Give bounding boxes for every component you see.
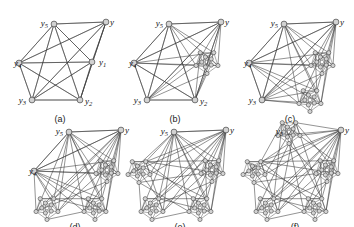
cluster-vertex: [311, 201, 315, 205]
cluster-vertex: [143, 197, 147, 201]
cluster-vertex: [241, 172, 245, 176]
backbone-edge: [80, 62, 92, 100]
cluster-vertex: [139, 209, 143, 213]
cluster-vertex: [324, 57, 328, 61]
cluster-vertex: [263, 172, 267, 176]
vertex-y2: [77, 97, 83, 103]
cluster-vertex: [52, 197, 56, 201]
cluster-vertex: [329, 165, 333, 169]
backbone-edge: [249, 63, 311, 66]
vertex-label-y2: y2: [84, 96, 93, 107]
figure-root: yy5y4y1y3y2(a)yy5y4y3y2(b)yy5y4y3(c)yy5y…: [0, 0, 354, 227]
backbone-edge: [296, 123, 341, 130]
cluster-vertex: [263, 201, 267, 205]
backbone-edge: [134, 63, 196, 66]
cluster-vertex: [329, 171, 333, 175]
vertex-label-y: y: [124, 125, 129, 135]
cluster-vertex: [40, 206, 44, 210]
cluster-vertex: [105, 179, 109, 183]
cluster-vertex: [318, 65, 322, 69]
cluster-vertex: [318, 159, 322, 163]
vertex-y1: [89, 59, 95, 65]
cluster-vertex: [318, 55, 322, 59]
cluster-vertex: [45, 217, 49, 221]
cluster-vertex: [315, 89, 319, 93]
cluster-vertex: [209, 63, 213, 67]
vertex-y: [118, 127, 124, 133]
panel-c: yy5y4y3(c): [243, 17, 344, 124]
vertex-label-y5: y5: [40, 18, 49, 29]
cluster-vertex: [148, 201, 152, 205]
cluster-vertex: [308, 206, 312, 210]
cluster-vertex: [313, 217, 317, 221]
cluster-vertex: [323, 163, 327, 167]
backbone-edge: [274, 130, 341, 199]
vertex-y5: [66, 129, 72, 135]
cluster-vertex: [272, 197, 276, 201]
cluster-vertex: [187, 209, 191, 213]
backbone-edge: [134, 63, 195, 100]
cluster-vertex: [303, 98, 307, 102]
replacement-cluster-e-3: [139, 197, 165, 222]
cluster-vertex: [141, 166, 145, 170]
cluster-vertex: [135, 164, 139, 168]
vertex-label-y5: y5: [55, 126, 64, 137]
cluster-vertex: [319, 101, 323, 105]
cluster-vertex: [198, 217, 202, 221]
cluster-vertex: [317, 209, 321, 213]
backbone-edge: [19, 24, 54, 63]
cluster-vertex: [256, 172, 260, 176]
backbone-edge: [69, 130, 121, 132]
cluster-vertex: [150, 217, 154, 221]
cluster-vertex: [210, 179, 214, 183]
panel-e: yy5(e): [126, 125, 234, 227]
cluster-vertex: [203, 159, 207, 163]
cluster-vertex: [214, 165, 218, 169]
vertex-label-y: y: [224, 17, 229, 27]
vertex-y3: [259, 97, 265, 103]
cluster-vertex: [221, 171, 225, 175]
cluster-vertex: [336, 171, 340, 175]
cluster-vertex: [205, 71, 209, 75]
vertex-label-y5: y5: [160, 126, 169, 137]
cluster-vertex: [82, 209, 86, 213]
cluster-vertex: [276, 209, 280, 213]
vertex-y: [103, 19, 109, 25]
cluster-vertex: [260, 206, 264, 210]
cluster-vertex: [98, 159, 102, 163]
cluster-vertex: [214, 171, 218, 175]
cluster-vertex: [49, 209, 53, 213]
vertex-label-y3: y3: [18, 95, 27, 106]
vertex-label-y4: y4: [28, 166, 37, 177]
cluster-vertex: [325, 179, 329, 183]
cluster-vertex: [194, 63, 198, 67]
cluster-vertex: [200, 60, 204, 64]
cluster-vertex: [209, 209, 213, 213]
backbone-edge: [159, 130, 226, 199]
cluster-vertex: [196, 211, 200, 215]
backbone-edge: [34, 171, 58, 212]
vertex-y5: [51, 21, 57, 27]
cluster-vertex: [103, 163, 107, 167]
cluster-vertex: [298, 133, 302, 137]
cluster-vertex: [285, 135, 289, 139]
vertex-label-y3: y3: [133, 95, 142, 106]
cluster-vertex: [97, 209, 101, 213]
cluster-vertex: [86, 197, 90, 201]
backbone-edge: [147, 53, 200, 100]
cluster-vertex: [256, 166, 260, 170]
cluster-vertex: [323, 173, 327, 177]
cluster-vertex: [203, 55, 207, 59]
vertex-label-y: y: [229, 125, 234, 135]
cluster-vertex: [144, 160, 148, 164]
cluster-vertex: [327, 51, 331, 55]
cluster-vertex: [320, 168, 324, 172]
cluster-vertex: [306, 103, 310, 107]
cluster-vertex: [94, 171, 98, 175]
cluster-vertex: [135, 174, 139, 178]
backbone-edge: [147, 74, 207, 101]
vertex-label-y3: y3: [248, 95, 257, 106]
cluster-vertex: [97, 203, 101, 207]
panel-d: yy5y4(d): [28, 125, 129, 227]
cluster-vertex: [287, 141, 291, 145]
